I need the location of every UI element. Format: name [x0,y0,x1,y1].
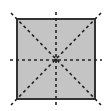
center-point [54,58,57,61]
square-symmetry-diagram [0,0,107,111]
